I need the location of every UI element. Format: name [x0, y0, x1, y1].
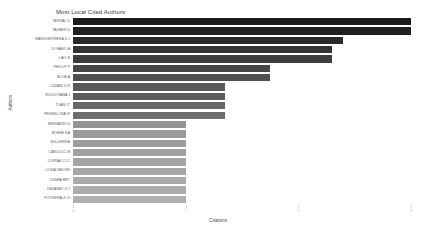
bar [73, 112, 225, 119]
bar-row [73, 168, 411, 175]
x-tick-label: 1 [176, 208, 196, 213]
bar [73, 37, 343, 44]
bar [73, 74, 270, 81]
y-tick-label: CUNHA MRT [49, 179, 70, 182]
bar-row [73, 177, 411, 184]
chart-title: Most Local Cited Authors [56, 9, 125, 15]
bar-row [73, 65, 411, 72]
bar [73, 93, 225, 100]
bar-row [73, 102, 411, 109]
y-tick-label: SEKRAL D [53, 20, 70, 23]
x-tick-label: 0 [63, 208, 83, 213]
x-tick-label: 3 [401, 208, 421, 213]
y-tick-label: DEKANEZ G J [47, 188, 70, 191]
bar-row [73, 158, 411, 165]
bar [73, 177, 186, 184]
bar [73, 18, 411, 25]
bar-row [73, 186, 411, 193]
bar [73, 140, 186, 147]
y-tick-label: COSALTAS RM [45, 169, 70, 172]
bar-row [73, 140, 411, 147]
y-tick-label: DI FABIO A [52, 48, 70, 51]
y-tick-label: PEDRELLINA VI [44, 113, 70, 116]
bar-row [73, 196, 411, 203]
bar-row [73, 55, 411, 62]
bar [73, 83, 225, 90]
bar [73, 149, 186, 156]
y-tick-label: BLOM A [57, 76, 70, 79]
y-tick-label: LIZZANI D R [50, 85, 70, 88]
bar-row [73, 149, 411, 156]
bar-row [73, 46, 411, 53]
bar-row [73, 37, 411, 44]
bar [73, 186, 186, 193]
plot-area [73, 17, 411, 204]
y-tick-label: RAVIKUMITHERA D J [35, 38, 70, 41]
bar-row [73, 121, 411, 128]
y-tick-label: ROLDOYAMA J [45, 94, 70, 97]
bar-row [73, 27, 411, 34]
y-tick-label: TAUBER D [52, 29, 70, 32]
y-tick-label: LIAO B [59, 57, 70, 60]
bar [73, 46, 332, 53]
bar [73, 130, 186, 137]
bar [73, 65, 270, 72]
bar [73, 158, 186, 165]
x-tick-label: 2 [288, 208, 308, 213]
y-tick-label: FITZGERALD G [44, 197, 70, 200]
y-tick-label: CORNACCI C [48, 160, 70, 163]
bar [73, 102, 225, 109]
y-tick-label: TUAN LT [56, 104, 70, 107]
bar-row [73, 130, 411, 137]
bar-row [73, 93, 411, 100]
bar-row [73, 74, 411, 81]
bar [73, 121, 186, 128]
bar [73, 168, 186, 175]
bar-row [73, 18, 411, 25]
y-axis-title: Authors [8, 83, 13, 123]
bar [73, 55, 332, 62]
bar [73, 196, 186, 203]
bar [73, 27, 411, 34]
x-axis-title: Citations [0, 218, 436, 223]
y-tick-label: BOHNE RA [52, 132, 70, 135]
bar-row [73, 112, 411, 119]
bar-row [73, 83, 411, 90]
most-local-cited-authors-chart: Most Local Cited Authors Authors Citatio… [0, 0, 436, 234]
y-tick-label: BULLERIRA [50, 141, 70, 144]
y-tick-label: CARLUCCI B [49, 151, 70, 154]
y-tick-label: BERNARDI G [48, 123, 70, 126]
y-tick-label: PHILLIP P [54, 66, 71, 69]
